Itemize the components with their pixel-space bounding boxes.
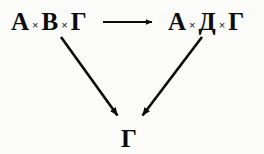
arrow-top-right-to-bottom (143, 37, 203, 116)
commutative-diagram: А × В × Г А × Д × Г Г (0, 0, 264, 154)
arrows-layer (0, 0, 264, 154)
arrow-top-left-to-bottom (61, 37, 118, 116)
